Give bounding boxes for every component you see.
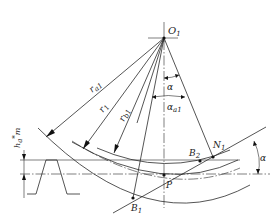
arrowhead-alpha-a1-right (181, 95, 185, 99)
label-ra1: ra1 (87, 79, 105, 97)
radius-ra1-line (46, 38, 164, 137)
label-B1: B1 (130, 203, 142, 215)
point-N1 (211, 155, 214, 158)
line-of-action (113, 127, 266, 213)
arrowhead-addendum-top (22, 154, 26, 160)
line-O1-N1 (164, 38, 213, 157)
arrowhead-addendum-bottom (22, 174, 26, 180)
point-O1 (162, 36, 165, 39)
svg-text:ha*m: ha*m (11, 127, 24, 148)
angle-alpha-a1-arc (152, 96, 185, 98)
label-alpha-right: α (260, 153, 266, 163)
arrowhead-alpha-left (164, 76, 168, 80)
label-alpha: α (167, 82, 173, 92)
arrowhead-rb1 (114, 144, 119, 153)
point-B1 (131, 196, 134, 199)
point-P (162, 173, 165, 176)
arrowhead-alpha-right (175, 74, 179, 78)
arrowhead-alpha-right-top (253, 141, 257, 146)
radius-rb1-line (114, 38, 164, 153)
svg-text:ra1: ra1 (87, 79, 105, 97)
label-B2: B2 (188, 148, 201, 160)
label-alpha-a1: αa1 (167, 102, 182, 114)
label-N1: N1 (212, 140, 225, 152)
label-O1: O1 (168, 25, 181, 38)
line-O1-alpha-a1-ray (137, 38, 164, 123)
label-P: P (165, 180, 173, 190)
arrowhead-alpha-right-bottom (256, 169, 260, 174)
rack-tooth-profile (27, 160, 80, 194)
radius-r1-line (83, 38, 164, 149)
label-rb1: rb1 (117, 107, 133, 124)
label-addendum: ha*m (11, 127, 24, 148)
gear-mesh-diagram: O1 ra1 r1 rb1 α αa1 N1 B2 B1 P α ha*m (0, 0, 278, 220)
svg-text:rb1: rb1 (117, 107, 133, 124)
